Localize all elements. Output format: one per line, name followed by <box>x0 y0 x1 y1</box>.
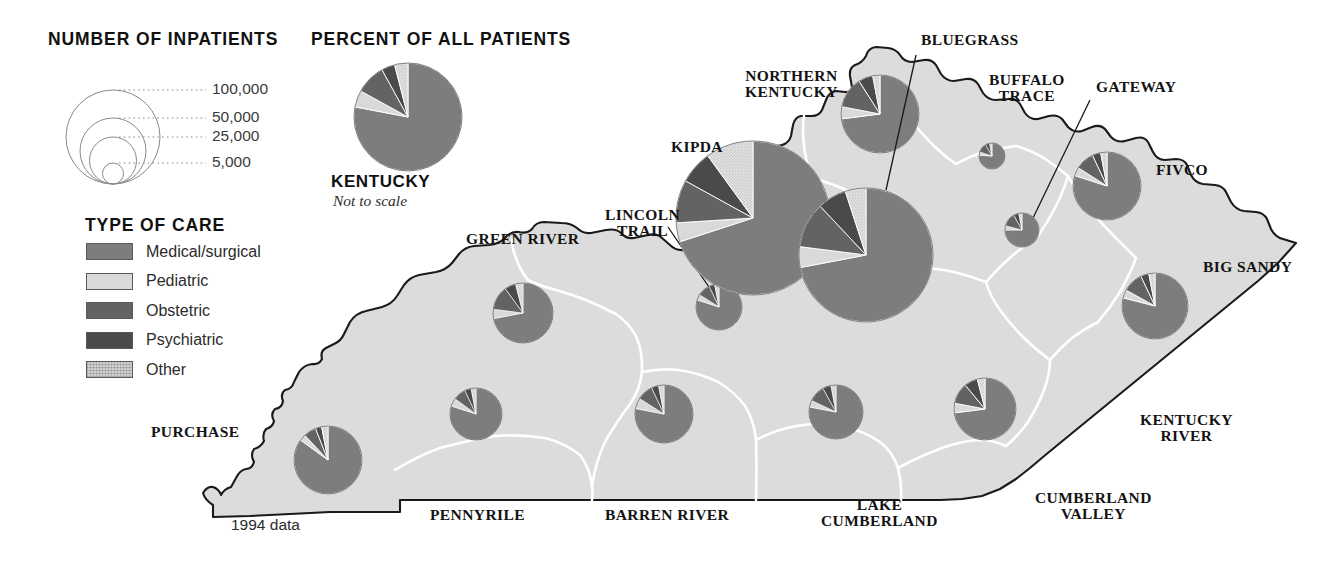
pie-big-sandy <box>1122 273 1188 339</box>
pie-northern-kentucky <box>841 75 919 153</box>
region-label-line: CUMBERLAND <box>821 513 938 529</box>
pie-green-river <box>493 283 553 343</box>
care-legend-label-obstetric: Obstetric <box>146 302 210 320</box>
region-label-pennyrile: PENNYRILE <box>430 507 525 523</box>
region-label-line: TRAIL <box>605 223 680 239</box>
pie-kentucky <box>354 63 462 171</box>
region-label-line: LINCOLN <box>605 207 680 223</box>
pie-bluegrass <box>799 188 933 322</box>
region-label-lincoln-trail: LINCOLNTRAIL <box>605 207 680 239</box>
region-label-line: VALLEY <box>1035 506 1152 522</box>
care-legend-label-medical_surgical: Medical/surgical <box>146 243 261 261</box>
region-label-line: RIVER <box>1140 428 1233 444</box>
region-label-line: CUMBERLAND <box>1035 490 1152 506</box>
kentucky-inset-subcaption: Not to scale <box>333 192 407 210</box>
region-label-line: KENTUCKY <box>745 84 838 100</box>
region-label-gateway: GATEWAY <box>1096 79 1176 95</box>
care-swatch-other <box>86 361 133 378</box>
pie-gateway <box>1005 213 1039 247</box>
care-legend-title: TYPE OF CARE <box>85 215 225 236</box>
size-legend-title: NUMBER OF INPATIENTS <box>48 29 278 50</box>
care-legend-label-psychiatric: Psychiatric <box>146 331 223 349</box>
care-swatch-pediatric <box>86 273 133 290</box>
region-label-barren-river: BARREN RIVER <box>605 507 729 523</box>
size-legend-label-25000: 25,000 <box>212 127 259 145</box>
care-swatch-medical_surgical <box>86 243 133 260</box>
care-legend-label-other: Other <box>146 361 186 379</box>
region-label-line: TRACE <box>989 88 1065 104</box>
pie-kentucky-river <box>954 378 1016 440</box>
region-label-big-sandy: BIG SANDY <box>1203 259 1292 275</box>
kentucky-inset-caption: KENTUCKY <box>331 172 430 192</box>
pie-lake-cumberland <box>809 385 863 439</box>
care-legend-item-psychiatric: Psychiatric <box>86 330 223 351</box>
pie-buffalo-trace <box>979 143 1005 169</box>
percent-legend-title: PERCENT OF ALL PATIENTS <box>311 29 571 50</box>
size-legend-label-5000: 5,000 <box>212 153 251 171</box>
size-legend-label-50000: 50,000 <box>212 108 259 126</box>
care-legend-label-pediatric: Pediatric <box>146 272 208 290</box>
pie-purchase <box>294 426 362 494</box>
region-label-purchase: PURCHASE <box>151 424 239 440</box>
region-label-line: NORTHERN <box>745 68 838 84</box>
pie-barren-river <box>635 385 693 443</box>
care-legend-item-pediatric: Pediatric <box>86 271 208 292</box>
region-label-line: KENTUCKY <box>1140 412 1233 428</box>
region-label-lake-cumberland: LAKECUMBERLAND <box>821 497 938 529</box>
care-swatch-obstetric <box>86 302 133 319</box>
region-label-line: BUFFALO <box>989 72 1065 88</box>
size-legend-label-100000: 100,000 <box>212 80 268 98</box>
region-label-buffalo-trace: BUFFALOTRACE <box>989 72 1065 104</box>
care-legend-item-other: Other <box>86 359 186 380</box>
region-label-kentucky-river: KENTUCKYRIVER <box>1140 412 1233 444</box>
inpatient-map-figure: NUMBER OF INPATIENTS PERCENT OF ALL PATI… <box>0 0 1325 565</box>
care-legend-item-medical_surgical: Medical/surgical <box>86 241 261 262</box>
pie-fivco <box>1073 152 1141 220</box>
care-swatch-psychiatric <box>86 332 133 349</box>
region-label-northern-kentucky: NORTHERNKENTUCKY <box>745 68 838 100</box>
region-label-cumberland-valley: CUMBERLANDVALLEY <box>1035 490 1152 522</box>
region-label-kipda: KIPDA <box>671 139 723 155</box>
pie-pennyrile <box>450 388 502 440</box>
region-label-green-river: GREEN RIVER <box>466 231 579 247</box>
data-year-note: 1994 data <box>231 516 300 534</box>
region-label-fivco: FIVCO <box>1156 162 1208 178</box>
region-label-bluegrass: BLUEGRASS <box>921 32 1019 48</box>
care-legend-item-obstetric: Obstetric <box>86 300 210 321</box>
region-label-line: LAKE <box>821 497 938 513</box>
